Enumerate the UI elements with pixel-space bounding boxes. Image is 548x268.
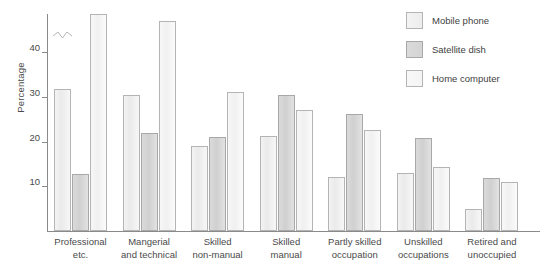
bar[interactable] xyxy=(260,136,277,231)
bar[interactable] xyxy=(397,173,414,231)
bar[interactable] xyxy=(227,92,244,231)
bar[interactable] xyxy=(415,138,432,231)
legend-swatch-satellite-dish xyxy=(406,41,423,58)
legend-label-mobile-phone: Mobile phone xyxy=(432,15,489,26)
legend-item-mobile-phone[interactable]: Mobile phone xyxy=(406,12,500,29)
bar[interactable] xyxy=(278,95,295,231)
legend-swatch-mobile-phone xyxy=(406,12,423,29)
legend-item-home-computer[interactable]: Home computer xyxy=(406,70,500,87)
legend-item-satellite-dish[interactable]: Satellite dish xyxy=(406,41,500,58)
bar[interactable] xyxy=(54,89,71,231)
bar[interactable] xyxy=(501,182,518,231)
bar[interactable] xyxy=(72,174,89,231)
y-axis-title: Percentage xyxy=(15,42,26,134)
legend-label-home-computer: Home computer xyxy=(432,73,500,84)
y-tick-label-40: 40 xyxy=(14,47,40,48)
x-axis-label: Retired and unoccupied xyxy=(456,236,527,261)
legend-swatch-home-computer xyxy=(406,70,423,87)
x-axis-label: Partly skilled occupation xyxy=(319,236,390,261)
bar-group xyxy=(328,14,396,231)
bar-chart: Percentage 10203040 Professional etc.Man… xyxy=(0,0,548,268)
y-tick-label-10: 10 xyxy=(14,181,40,182)
legend: Mobile phone Satellite dish Home compute… xyxy=(406,12,500,99)
bar[interactable] xyxy=(465,209,482,231)
bar[interactable] xyxy=(123,95,140,231)
x-axis-label: Professional etc. xyxy=(45,236,116,261)
bar[interactable] xyxy=(90,14,107,231)
bar[interactable] xyxy=(159,21,176,231)
bar[interactable] xyxy=(346,114,363,231)
legend-label-satellite-dish: Satellite dish xyxy=(432,44,486,55)
x-axis-label: Skilled manual xyxy=(251,236,322,261)
bar-group xyxy=(123,14,191,231)
bar[interactable] xyxy=(364,130,381,231)
y-tick-label-30: 30 xyxy=(14,92,40,93)
bar[interactable] xyxy=(483,178,500,231)
bar-group xyxy=(191,14,259,231)
axis-break-zigzag-icon xyxy=(53,29,72,42)
bar-group xyxy=(54,14,122,231)
bar[interactable] xyxy=(141,133,158,231)
bar[interactable] xyxy=(191,146,208,231)
bar[interactable] xyxy=(328,177,345,231)
x-axis-label: Skilled non-manual xyxy=(182,236,253,261)
x-axis-label: Unskilled occupations xyxy=(388,236,459,261)
bar[interactable] xyxy=(209,137,226,231)
bar[interactable] xyxy=(296,110,313,231)
bar-group xyxy=(260,14,328,231)
x-axis-label: Mangerial and technical xyxy=(114,236,185,261)
x-axis-line xyxy=(47,231,540,232)
bar[interactable] xyxy=(433,167,450,231)
y-tick-label-20: 20 xyxy=(14,137,40,138)
